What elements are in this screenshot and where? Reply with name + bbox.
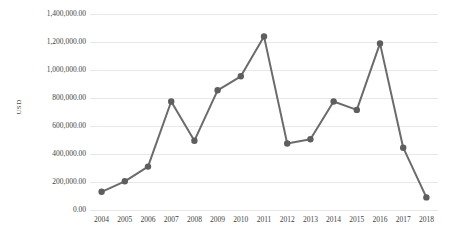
data-point-marker bbox=[307, 136, 313, 142]
y-axis-tick-label: 1,200,000.00 bbox=[18, 38, 86, 46]
y-axis-tick-label: 1,000,000.00 bbox=[18, 66, 86, 74]
y-axis-tick-label: 400,000.00 bbox=[18, 150, 86, 158]
data-point-marker bbox=[400, 145, 406, 151]
data-point-marker bbox=[238, 73, 244, 79]
series-polyline bbox=[102, 36, 427, 197]
data-point-marker bbox=[284, 140, 290, 146]
data-point-marker bbox=[214, 87, 220, 93]
y-axis-tick-label: 0.00 bbox=[18, 206, 86, 214]
data-point-marker bbox=[98, 189, 104, 195]
data-point-marker bbox=[330, 98, 336, 104]
y-axis-tick-labels: 0.00200,000.00400,000.00600,000.00800,00… bbox=[18, 0, 86, 241]
line-chart: USD 0.00200,000.00400,000.00600,000.0080… bbox=[0, 0, 449, 241]
data-point-marker bbox=[377, 40, 383, 46]
plot-area bbox=[90, 14, 438, 210]
y-axis-tick-label: 800,000.00 bbox=[18, 94, 86, 102]
data-point-marker bbox=[423, 194, 429, 200]
x-axis-tick-label: 2018 bbox=[409, 215, 443, 224]
y-axis-tick-label: 600,000.00 bbox=[18, 122, 86, 130]
data-point-marker bbox=[191, 138, 197, 144]
data-point-marker bbox=[354, 107, 360, 113]
data-point-marker bbox=[168, 98, 174, 104]
x-axis-tick-labels: 2004200520062007200820092010201120122013… bbox=[90, 215, 438, 235]
y-axis-tick-label: 200,000.00 bbox=[18, 178, 86, 186]
series-line-usd bbox=[90, 14, 438, 210]
data-point-marker bbox=[145, 163, 151, 169]
gridline bbox=[90, 210, 438, 211]
data-point-marker bbox=[122, 178, 128, 184]
y-axis-tick-label: 1,400,000.00 bbox=[18, 10, 86, 18]
data-point-marker bbox=[261, 33, 267, 39]
